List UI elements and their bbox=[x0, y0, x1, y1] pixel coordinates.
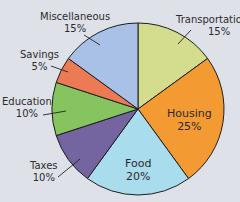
label-transportation-name: Transportation bbox=[176, 14, 240, 26]
label-taxes: Taxes 10% bbox=[30, 160, 58, 184]
label-education: Education 10% bbox=[2, 96, 52, 120]
label-education-pct: 10% bbox=[2, 108, 52, 120]
label-food: Food 20% bbox=[125, 157, 151, 183]
label-taxes-name: Taxes bbox=[30, 160, 58, 172]
label-transportation: Transportation 15% bbox=[176, 14, 240, 38]
label-food-name: Food bbox=[125, 157, 151, 170]
label-savings-name: Savings bbox=[20, 49, 59, 61]
label-food-pct: 20% bbox=[125, 170, 151, 183]
label-transportation-pct: 15% bbox=[176, 26, 240, 38]
label-housing-name: Housing bbox=[167, 107, 212, 120]
label-miscellaneous-pct: 15% bbox=[40, 23, 110, 35]
label-savings-pct: 5% bbox=[20, 61, 59, 73]
label-miscellaneous-name: Miscellaneous bbox=[40, 11, 110, 23]
label-savings: Savings 5% bbox=[20, 49, 59, 73]
label-housing-pct: 25% bbox=[167, 120, 212, 133]
label-miscellaneous: Miscellaneous 15% bbox=[40, 11, 110, 35]
label-education-name: Education bbox=[2, 96, 52, 108]
label-housing: Housing 25% bbox=[167, 107, 212, 133]
label-taxes-pct: 10% bbox=[30, 172, 58, 184]
